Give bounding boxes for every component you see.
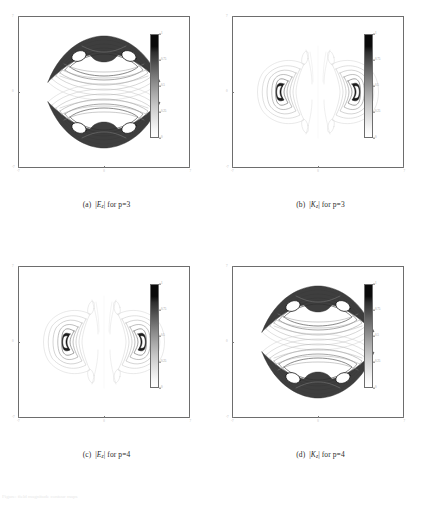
y-axis-tick-label-min: -7 xyxy=(226,416,229,419)
panel-caption-label-b: (b) xyxy=(296,200,305,209)
y-axis-tick-label-max: 7 xyxy=(226,15,228,18)
y-tick-mark xyxy=(232,92,234,93)
x-axis-tick-label-min: -7 xyxy=(231,420,234,423)
figure-panel-c: -7 0 7 -7 0 7 1 0.75 0.5 0.25 0 (c) |Ez|… xyxy=(0,252,213,502)
colorbar-gradient xyxy=(150,284,159,388)
y-tick-mark xyxy=(18,342,20,343)
figure-grid: -7 0 7 -7 0 7 1 0.75 0.5 0.25 0 (a) |Ez|… xyxy=(0,0,427,511)
plot-area-a: -7 0 7 -7 0 7 xyxy=(18,16,190,168)
y-tick-mark xyxy=(232,266,234,267)
colorbar-label-1: 1 xyxy=(375,32,377,35)
panel-caption-connector-d: for xyxy=(322,450,331,459)
panel-caption-param-a: p=3 xyxy=(118,200,130,209)
colorbar-label-0: 0 xyxy=(161,136,163,139)
contour-plot-c xyxy=(18,266,190,418)
panel-caption-label-d: (d) xyxy=(296,450,305,459)
colorbar-label-025: 0.25 xyxy=(375,360,380,363)
panel-caption-d: (d) |Kz| for p=4 xyxy=(214,450,427,459)
x-axis-tick-label-min: -7 xyxy=(231,170,234,173)
colorbar-label-075: 0.75 xyxy=(161,308,166,311)
y-tick-mark xyxy=(18,167,20,168)
colorbar-label-0: 0 xyxy=(161,386,163,389)
x-axis-tick-label-mid: 0 xyxy=(103,170,105,173)
y-axis-tick-label-max: 7 xyxy=(12,265,14,268)
y-tick-mark xyxy=(18,92,20,93)
x-axis-tick-label-mid: 0 xyxy=(317,170,319,173)
panel-caption-param-d: p=4 xyxy=(333,450,345,459)
y-axis-tick-label-min: -7 xyxy=(12,416,15,419)
y-tick-mark xyxy=(232,167,234,168)
colorbar-label-05: 0.5 xyxy=(161,334,165,337)
y-tick-mark xyxy=(232,342,234,343)
panel-caption-param-c: p=4 xyxy=(118,450,130,459)
colorbar-label-075: 0.75 xyxy=(161,58,166,61)
panel-caption-param-b: p=3 xyxy=(333,200,345,209)
colorbar-label-05: 0.5 xyxy=(375,84,379,87)
panel-caption-c: (c) |Ez| for p=4 xyxy=(0,450,213,459)
y-axis-tick-label-mid: 0 xyxy=(226,90,228,93)
x-tick-mark xyxy=(104,166,105,168)
colorbar-label-0: 0 xyxy=(375,136,377,139)
panel-caption-connector-b: for xyxy=(322,200,331,209)
y-axis-tick-label-min: -7 xyxy=(12,166,15,169)
x-axis-tick-label-max: 7 xyxy=(403,420,405,423)
colorbar-gradient xyxy=(364,34,373,138)
x-axis-tick-label-max: 7 xyxy=(189,420,191,423)
x-tick-mark xyxy=(104,416,105,418)
plot-area-c: -7 0 7 -7 0 7 xyxy=(18,266,190,418)
colorbar-label-075: 0.75 xyxy=(375,58,380,61)
colorbar-label-025: 0.25 xyxy=(161,110,166,113)
colorbar-label-075: 0.75 xyxy=(375,308,380,311)
colorbar-label-0: 0 xyxy=(375,386,377,389)
colorbar-c: 1 0.75 0.5 0.25 0 xyxy=(150,284,159,388)
figure-panel-a: -7 0 7 -7 0 7 1 0.75 0.5 0.25 0 (a) |Ez|… xyxy=(0,2,213,252)
y-axis-tick-label-min: -7 xyxy=(226,166,229,169)
colorbar-label-05: 0.5 xyxy=(161,84,165,87)
colorbar-label-1: 1 xyxy=(375,282,377,285)
figure-footer-text: Figure: field magnitude contour maps xyxy=(2,494,425,500)
colorbar-b: 1 0.75 0.5 0.25 0 xyxy=(364,34,373,138)
colorbar-label-05: 0.5 xyxy=(375,334,379,337)
y-tick-mark xyxy=(18,266,20,267)
contour-plot-b xyxy=(232,16,404,168)
x-tick-mark xyxy=(403,166,404,168)
colorbar-label-1: 1 xyxy=(161,32,163,35)
panel-caption-connector-a: for xyxy=(107,200,116,209)
y-axis-tick-label-mid: 0 xyxy=(226,340,228,343)
figure-panel-d: -7 0 7 -7 0 7 1 0.75 0.5 0.25 0 (d) |Kz|… xyxy=(214,252,427,502)
y-axis-tick-label-mid: 0 xyxy=(12,90,14,93)
colorbar-gradient xyxy=(150,34,159,138)
y-tick-mark xyxy=(18,417,20,418)
colorbar-a: 1 0.75 0.5 0.25 0 xyxy=(150,34,159,138)
panel-caption-label-c: (c) xyxy=(83,450,92,459)
y-tick-mark xyxy=(232,16,234,17)
colorbar-label-1: 1 xyxy=(161,282,163,285)
x-axis-tick-label-mid: 0 xyxy=(103,420,105,423)
plot-area-d: -7 0 7 -7 0 7 xyxy=(232,266,404,418)
x-tick-mark xyxy=(318,166,319,168)
panel-caption-label-a: (a) xyxy=(83,200,92,209)
panel-caption-connector-c: for xyxy=(107,450,116,459)
x-tick-mark xyxy=(189,166,190,168)
panel-caption-a: (a) |Ez| for p=3 xyxy=(0,200,213,209)
x-axis-tick-label-max: 7 xyxy=(403,170,405,173)
x-axis-tick-label-min: -7 xyxy=(17,170,20,173)
plot-area-b: -7 0 7 -7 0 7 xyxy=(232,16,404,168)
colorbar-label-025: 0.25 xyxy=(161,360,166,363)
contour-plot-d xyxy=(232,266,404,418)
y-tick-mark xyxy=(18,16,20,17)
y-axis-tick-label-mid: 0 xyxy=(12,340,14,343)
x-tick-mark xyxy=(403,416,404,418)
x-axis-tick-label-max: 7 xyxy=(189,170,191,173)
x-tick-mark xyxy=(189,416,190,418)
y-axis-tick-label-max: 7 xyxy=(226,265,228,268)
colorbar-label-025: 0.25 xyxy=(375,110,380,113)
x-tick-mark xyxy=(318,416,319,418)
colorbar-d: 1 0.75 0.5 0.25 0 xyxy=(364,284,373,388)
y-tick-mark xyxy=(232,417,234,418)
panel-caption-b: (b) |Kz| for p=3 xyxy=(214,200,427,209)
colorbar-gradient xyxy=(364,284,373,388)
y-axis-tick-label-max: 7 xyxy=(12,15,14,18)
contour-plot-a xyxy=(18,16,190,168)
x-axis-tick-label-mid: 0 xyxy=(317,420,319,423)
